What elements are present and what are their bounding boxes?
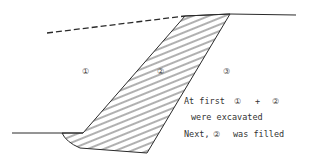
note-circle-1: ①: [234, 97, 241, 106]
note-circle-2: ②: [272, 97, 279, 106]
note-was-filled: was filled: [233, 129, 284, 139]
note-at-first: At first: [184, 96, 225, 106]
note-circle-2b: ②: [213, 130, 220, 139]
note-plus: +: [255, 96, 260, 106]
note-line-3: Next, ② was filled: [184, 129, 284, 139]
note-line-1: At first ① + ②: [184, 96, 279, 106]
region-3-label: ③: [223, 67, 230, 76]
original-ground-dashed-line: [47, 16, 185, 33]
region-2-label: ②: [157, 67, 164, 76]
cross-section-diagram: ① ② ③ At first ① + ② were excavated Next…: [0, 0, 312, 158]
note-next: Next,: [184, 129, 210, 139]
region-1-label: ①: [82, 67, 89, 76]
note-line-2: were excavated: [191, 112, 263, 122]
